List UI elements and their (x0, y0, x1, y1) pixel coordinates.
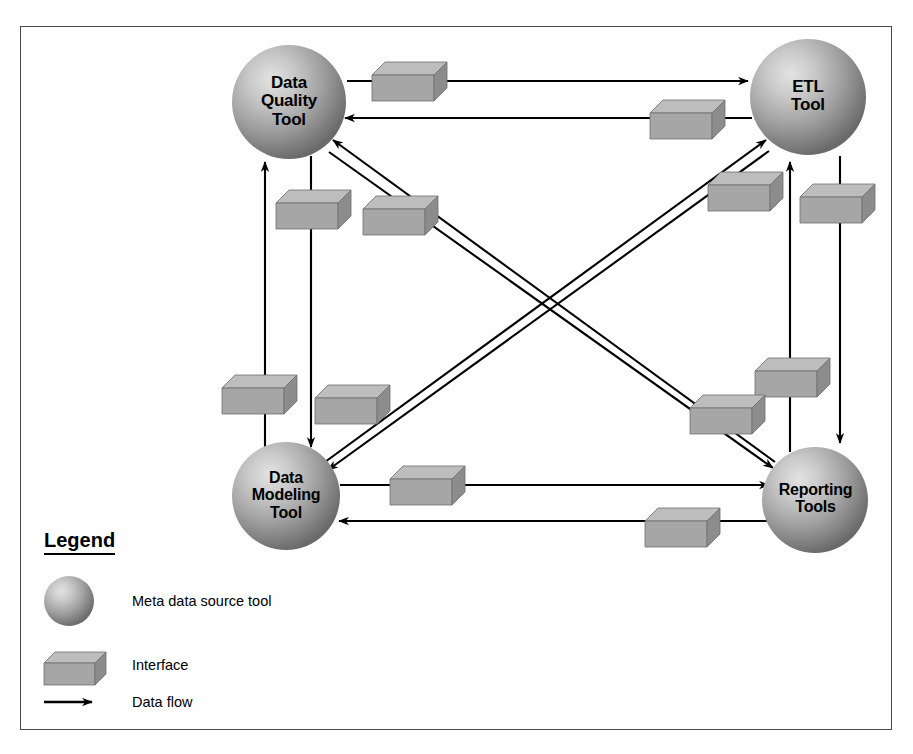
node-data-modeling-tool[interactable] (232, 442, 340, 550)
interface-dq-to-etl[interactable] (372, 62, 447, 101)
flow-lines-group (265, 81, 840, 521)
interface-dq-to-dm[interactable] (276, 190, 351, 229)
interface-dm-to-etl[interactable] (708, 172, 783, 211)
legend-sphere-icon (44, 576, 94, 626)
interface-rt-to-dq[interactable] (315, 385, 390, 424)
interface-etl-to-dm[interactable] (690, 395, 765, 434)
legend-title: Legend (44, 529, 115, 555)
interface-rt-to-etl[interactable] (755, 358, 830, 397)
interface-rt-to-dm[interactable] (645, 508, 720, 547)
legend-label-data-flow: Data flow (132, 694, 192, 710)
node-etl-tool[interactable] (750, 39, 866, 155)
interface-dq-to-rt[interactable] (363, 196, 438, 235)
diagram-canvas: Data Quality Tool ETL Tool Data Modeling… (0, 0, 913, 754)
interface-etl-to-dq[interactable] (650, 100, 725, 139)
legend-label-interface: Interface (132, 657, 188, 673)
legend-cuboid-icon (44, 652, 106, 685)
interface-dm-to-rt[interactable] (390, 466, 465, 505)
node-reporting-tools[interactable] (762, 447, 868, 553)
node-spheres-group (232, 39, 868, 553)
interface-dm-to-dq[interactable] (222, 375, 297, 414)
interface-etl-to-rt[interactable] (800, 184, 875, 223)
legend-label-meta-data-source-tool: Meta data source tool (132, 593, 271, 609)
diagram-graphics (0, 0, 913, 754)
legend-symbols-group (44, 576, 106, 702)
node-data-quality-tool[interactable] (232, 45, 346, 159)
